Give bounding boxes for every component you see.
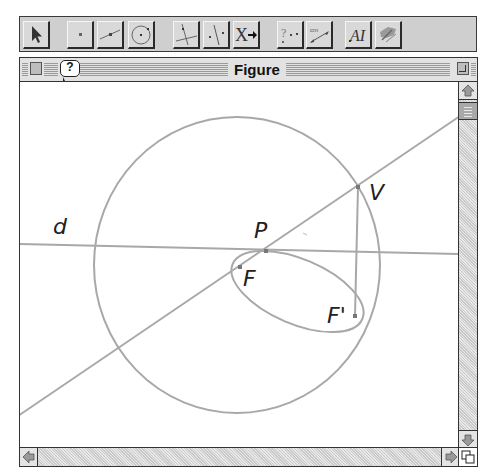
svg-text:X: X <box>235 25 248 45</box>
symmetry-icon <box>204 22 228 47</box>
scroll-up-button[interactable] <box>459 82 477 100</box>
vertical-scrollbar[interactable] <box>458 82 477 448</box>
measure-cm-icon: cm <box>307 22 331 47</box>
help-balloon-icon[interactable]: ? <box>60 60 80 77</box>
point-p <box>264 249 268 253</box>
label-f-prime: F' <box>327 305 346 327</box>
figure-canvas[interactable]: d P F F' V <box>20 82 458 448</box>
title-stripes <box>471 63 476 76</box>
circle <box>94 117 380 413</box>
vertical-scroll-thumb[interactable] <box>459 102 477 120</box>
line-d <box>20 244 458 254</box>
zoom-box-icon[interactable] <box>457 62 469 75</box>
left-arrow-icon <box>20 448 38 466</box>
perpendicular-tool-button[interactable] <box>173 21 200 49</box>
label-d: d <box>53 216 67 238</box>
circle-tool-button[interactable] <box>128 21 155 49</box>
property-check-tool-button[interactable]: ? <box>277 21 304 49</box>
figure-window: ? Figure <box>19 57 478 467</box>
pointer-tool-button[interactable] <box>23 21 50 49</box>
window-title: Figure <box>228 60 286 79</box>
transform-x-arrow-icon: X <box>234 22 258 47</box>
svg-text:cm: cm <box>310 27 318 33</box>
scroll-left-button[interactable] <box>20 448 38 466</box>
point-tool-button[interactable] <box>67 21 94 49</box>
point-icon <box>68 22 92 47</box>
line-tool-button[interactable] <box>97 21 124 49</box>
question-points-icon: ? <box>278 22 302 47</box>
title-bar[interactable]: ? Figure <box>20 58 477 82</box>
paint-brush-icon <box>376 22 400 47</box>
horizontal-scrollbar[interactable] <box>20 447 459 466</box>
arrow-pointer-icon <box>24 22 48 47</box>
label-p: P <box>254 220 267 242</box>
point-f-prime <box>353 314 357 318</box>
tool-palette: X ? cm AI <box>19 16 477 52</box>
close-box-icon[interactable] <box>30 62 42 75</box>
point-v <box>356 185 360 189</box>
label-f: F <box>243 268 256 290</box>
label-v: V <box>369 182 384 204</box>
text-label-tool-button[interactable]: AI <box>345 21 372 49</box>
svg-text:AI: AI <box>349 27 366 44</box>
resize-grow-box[interactable] <box>458 447 477 466</box>
scroll-down-button[interactable] <box>459 430 477 448</box>
line-icon <box>98 22 122 47</box>
measure-tool-button[interactable]: cm <box>306 21 333 49</box>
text-ai-icon: AI <box>346 22 370 47</box>
title-stripes <box>22 63 28 76</box>
appearance-tool-button[interactable] <box>375 21 402 49</box>
geometry-figure <box>20 82 458 448</box>
scroll-right-button[interactable] <box>441 448 459 466</box>
symmetry-tool-button[interactable] <box>203 21 230 49</box>
point-f <box>238 265 242 269</box>
perpendicular-icon <box>174 22 198 47</box>
up-arrow-icon <box>459 82 477 100</box>
transform-tool-button[interactable]: X <box>233 21 260 49</box>
resize-icon <box>459 448 477 466</box>
title-stripes <box>44 63 58 76</box>
svg-text:?: ? <box>281 26 286 40</box>
circle-icon <box>129 22 153 47</box>
